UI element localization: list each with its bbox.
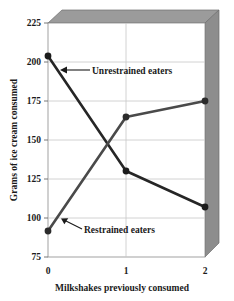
x-axis-title: Milkshakes previously consumed (55, 283, 190, 293)
annotation-unrestrained-label: Unrestrained eaters (92, 66, 173, 76)
xtick-label-1: 1 (124, 266, 129, 276)
ytick-label-125: 125 (27, 174, 42, 184)
x-axis-tick-labels: 0 1 2 (46, 266, 208, 276)
data-point-restrained-1 (123, 114, 130, 121)
data-point-unrestrained-2 (202, 204, 209, 211)
data-point-unrestrained-1 (123, 168, 130, 175)
xtick-label-0: 0 (46, 266, 51, 276)
ytick-label-75: 75 (32, 252, 42, 262)
chart-3d-right-face (205, 10, 219, 257)
ytick-label-200: 200 (27, 57, 42, 67)
ytick-label-175: 175 (27, 96, 42, 106)
y-axis-tick-labels: 225 200 175 150 125 100 75 (27, 18, 42, 262)
data-point-restrained-0 (45, 228, 52, 235)
ytick-label-150: 150 (27, 135, 42, 145)
y-axis-title: Grams of ice cream consumed (9, 78, 19, 201)
data-point-restrained-2 (202, 98, 209, 105)
data-point-unrestrained-0 (45, 53, 52, 60)
line-chart: 225 200 175 150 125 100 75 0 1 2 Milksha… (0, 0, 234, 301)
xtick-label-2: 2 (203, 266, 208, 276)
annotation-restrained-label: Restrained eaters (84, 225, 155, 235)
ytick-label-225: 225 (27, 18, 42, 28)
chart-3d-top-face (48, 10, 219, 23)
ytick-label-100: 100 (27, 213, 42, 223)
chart-figure: 225 200 175 150 125 100 75 0 1 2 Milksha… (0, 0, 234, 301)
